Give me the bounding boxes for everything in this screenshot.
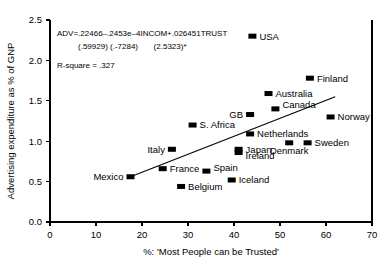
x-tick-label: 60 [321,229,332,240]
data-point-label: France [170,163,200,174]
data-point-labels: USAFinlandAustraliaCanadaGBNorwayS. Afri… [93,31,370,192]
scatter-chart: 0102030405060700.00.51.01.52.02.5 USAFin… [0,0,390,266]
data-point-marker [228,177,236,182]
data-point-label: Netherlands [257,128,308,139]
data-point-marker [327,114,335,119]
x-tick-label: 40 [229,229,240,240]
data-point-marker [189,123,197,128]
data-point-label: Belgium [188,181,222,192]
data-point-marker [159,166,167,171]
y-axis-title: Advertising expenditure as % of GNP [5,43,16,200]
data-point-label: Spain [213,162,237,173]
x-tick-label: 20 [137,229,148,240]
data-point-label: USA [259,31,279,42]
data-point-label: Iceland [239,174,270,185]
data-point-label: Finland [317,73,348,84]
data-point-marker [246,131,254,136]
data-point-marker [235,150,243,155]
y-tick-label: 0.5 [29,176,42,187]
y-tick-label: 0.0 [29,216,42,227]
x-axis-title: %: 'Most People can be Trusted' [143,246,279,257]
data-point-marker [168,147,176,152]
data-point-marker [177,184,185,189]
x-tick-label: 0 [47,229,52,240]
data-point-marker [271,106,279,111]
data-point-marker [248,34,256,39]
data-point-marker [202,169,210,174]
data-point-label: Ireland [246,150,275,161]
data-point-label: S. Africa [200,119,236,130]
x-tick-label: 30 [183,229,194,240]
data-point-label: Norway [338,111,370,122]
data-point-label: GB [229,109,243,120]
y-tick-label: 2.5 [29,14,42,25]
chart-canvas: 0102030405060700.00.51.01.52.02.5 USAFin… [0,0,390,266]
data-point-marker [246,112,254,117]
annotation-r-square: R-square = .327 [57,61,115,70]
data-point-label: Italy [147,144,165,155]
data-point-label: Australia [276,88,314,99]
data-point-label: Denmark [270,145,309,156]
y-tick-label: 1.5 [29,95,42,106]
y-tick-label: 2.0 [29,55,42,66]
data-point-marker [127,174,135,179]
annotation-statistics: (.59929) (.-7284) (2.5323)* [78,42,187,51]
x-tick-label: 50 [275,229,286,240]
data-point-label: Sweden [315,137,349,148]
x-tick-label: 10 [91,229,102,240]
data-point-label: Mexico [93,171,123,182]
data-point-label: Canada [282,99,316,110]
y-tick-label: 1.0 [29,136,42,147]
data-point-marker [306,76,314,81]
annotation-equation: ADV=.22466–.2453e–4INCOM+.026451TRUST [57,29,227,38]
x-tick-label: 70 [367,229,378,240]
data-point-marker [265,91,273,96]
